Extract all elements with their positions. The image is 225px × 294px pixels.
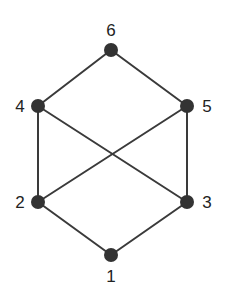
- edge-4-6: [38, 50, 111, 106]
- node-4: [31, 99, 45, 113]
- edges-group: [38, 50, 187, 255]
- node-3: [180, 195, 194, 209]
- hasse-diagram: 123456: [0, 0, 225, 294]
- node-6: [104, 43, 118, 57]
- node-label-6: 6: [106, 21, 115, 40]
- node-5: [180, 99, 194, 113]
- edge-1-2: [38, 202, 111, 255]
- nodes-group: [31, 43, 194, 262]
- node-label-4: 4: [15, 97, 24, 116]
- node-label-3: 3: [202, 193, 211, 212]
- edge-1-3: [111, 202, 187, 255]
- node-label-2: 2: [15, 193, 24, 212]
- edge-5-6: [111, 50, 187, 106]
- node-label-1: 1: [106, 267, 115, 286]
- node-1: [104, 248, 118, 262]
- node-2: [31, 195, 45, 209]
- node-label-5: 5: [202, 97, 211, 116]
